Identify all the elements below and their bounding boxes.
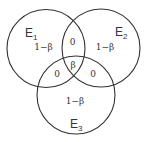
set-label-e1: E1 bbox=[25, 26, 38, 42]
region-only-e3: 1−β bbox=[66, 96, 84, 106]
set-label-e2: E2 bbox=[115, 25, 128, 41]
region-e1-e3: 0 bbox=[54, 69, 60, 79]
region-e1-e2-e3: β bbox=[70, 60, 75, 70]
region-only-e1: 1−β bbox=[34, 42, 52, 52]
region-e2-e3: 0 bbox=[90, 69, 96, 79]
venn-diagram: E1 E2 E3 1−β 1−β 1−β 0 0 0 β bbox=[0, 0, 147, 142]
set-label-e3: E3 bbox=[70, 117, 83, 133]
region-only-e2: 1−β bbox=[96, 42, 114, 52]
region-e1-e2: 0 bbox=[70, 37, 76, 47]
